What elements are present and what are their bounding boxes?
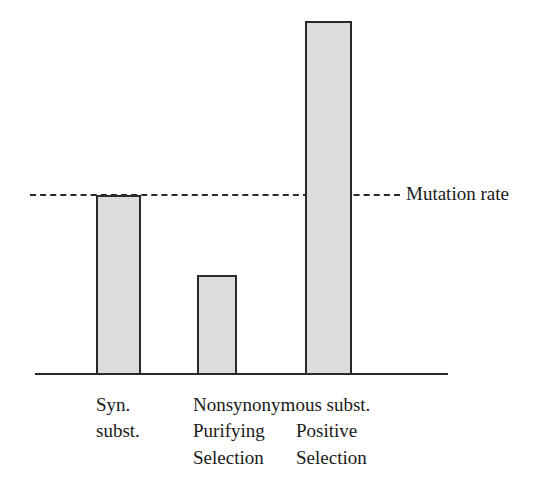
purifying-label-line1: Purifying bbox=[193, 418, 265, 444]
syn-label-line1: Syn. bbox=[96, 392, 130, 418]
positive-label-line2: Selection bbox=[296, 445, 367, 471]
syn-label-line2: subst. bbox=[96, 418, 140, 444]
bar-purifying-selection bbox=[197, 275, 237, 375]
bar-positive-selection bbox=[305, 21, 352, 375]
nonsyn-header-label: Nonsynonymous subst. bbox=[193, 392, 370, 418]
bar-syn-subst bbox=[96, 195, 141, 375]
x-axis-baseline bbox=[35, 373, 448, 375]
purifying-label-line2: Selection bbox=[193, 445, 264, 471]
mutation-rate-label: Mutation rate bbox=[406, 181, 509, 207]
positive-label-line1: Positive bbox=[296, 418, 357, 444]
